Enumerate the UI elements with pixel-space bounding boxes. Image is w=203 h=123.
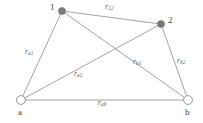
node-label-n1: 1 <box>50 3 55 12</box>
node-label-na: a <box>18 108 22 117</box>
node-nb-open <box>184 96 193 105</box>
edge-label-eb2: rb2 <box>177 57 185 65</box>
edge-label-e12: r12 <box>105 3 113 11</box>
edge-label-subscript: 12 <box>108 5 113 11</box>
distance-diagram-figure: r12ra1rb2ra2rb1rab12ab <box>0 0 203 123</box>
edge-label-subscript: b2 <box>180 59 185 65</box>
edge-label-ea1: ra1 <box>25 48 33 56</box>
edge-label-eab: rab <box>98 99 106 107</box>
edge-label-ea2: ra2 <box>74 70 82 78</box>
node-n2-filled <box>157 20 164 27</box>
edge-label-eb1: rb1 <box>133 58 141 66</box>
edge-label-subscript: a2 <box>77 72 82 78</box>
nodes-group <box>17 7 193 104</box>
node-label-n2: 2 <box>168 16 173 25</box>
node-na-open <box>17 96 26 105</box>
node-n1-filled <box>58 7 65 14</box>
node-label-nb: b <box>185 108 190 117</box>
edge-label-subscript: a1 <box>28 50 33 56</box>
edge-label-subscript: ab <box>101 101 106 107</box>
edge-label-subscript: b1 <box>136 60 141 66</box>
edge-e12 <box>62 11 161 24</box>
